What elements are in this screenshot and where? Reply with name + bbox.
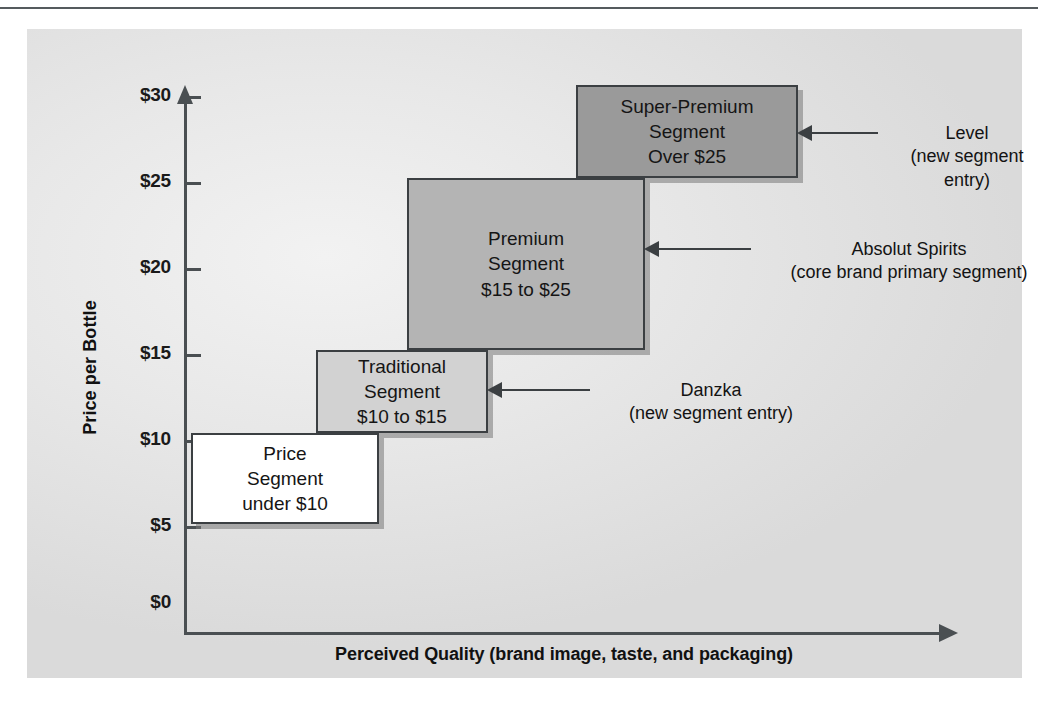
segment-super-premium-line2: Segment: [649, 119, 725, 144]
y-tick-mark-5: [187, 526, 201, 529]
x-axis-title: Perceived Quality (brand image, taste, a…: [184, 644, 944, 665]
y-tick-label-20: $20: [107, 256, 171, 278]
y-tick-mark-20: [187, 268, 201, 271]
top-divider-rule: [0, 7, 1038, 9]
chart-figure: $30 $25 $20 $15 $10 $5 $0 Price per Bott…: [0, 0, 1038, 701]
segment-price-line3: under $10: [242, 491, 328, 516]
segment-traditional-line3: $10 to $15: [357, 404, 447, 429]
segment-price-line1: Price: [263, 441, 306, 466]
callout-level: Level (new segment entry): [869, 122, 1038, 192]
callout-arrowhead-danzka-icon: [487, 382, 502, 398]
callout-absolut-detail-1: (core brand primary segment): [761, 261, 1038, 284]
segment-box-price[interactable]: Price Segment under $10: [191, 433, 379, 524]
x-axis-arrowhead-icon: [939, 624, 958, 642]
y-tick-mark-25: [187, 182, 201, 185]
segment-super-premium-line3: Over $25: [648, 144, 726, 169]
callout-absolut: Absolut Spirits (core brand primary segm…: [761, 238, 1038, 285]
y-tick-label-15: $15: [107, 342, 171, 364]
segment-premium-line2: Segment: [488, 251, 564, 276]
segment-premium-line1: Premium: [488, 226, 564, 251]
callout-arrowhead-level-icon: [797, 125, 812, 141]
y-tick-25: $25: [105, 182, 201, 185]
y-tick-mark-15: [187, 354, 201, 357]
segment-price-line2: Segment: [247, 466, 323, 491]
y-tick-10: $10: [105, 440, 201, 443]
y-tick-label-0: $0: [107, 591, 171, 613]
callout-absolut-brand: Absolut Spirits: [761, 238, 1038, 261]
callout-leader-line-absolut: [659, 248, 751, 250]
y-tick-30: $30: [105, 96, 201, 99]
y-tick-label-5: $5: [107, 514, 171, 536]
callout-danzka: Danzka (new segment entry): [601, 379, 821, 426]
y-tick-label-25: $25: [107, 170, 171, 192]
y-axis-line: [184, 101, 187, 634]
y-axis-arrowhead-icon: [177, 85, 193, 104]
segment-box-premium[interactable]: Premium Segment $15 to $25: [407, 178, 645, 350]
y-tick-0: $0: [105, 603, 201, 606]
callout-leader-line-danzka: [502, 389, 590, 391]
segment-premium-line3: $15 to $25: [481, 277, 571, 302]
y-tick-label-10: $10: [107, 428, 171, 450]
segment-traditional-line2: Segment: [364, 379, 440, 404]
segment-traditional-line1: Traditional: [358, 354, 446, 379]
callout-level-brand: Level: [869, 122, 1038, 145]
y-tick-mark-30: [187, 96, 201, 99]
segment-super-premium-line1: Super-Premium: [620, 94, 753, 119]
callout-level-detail-2: entry): [869, 169, 1038, 192]
y-tick-15: $15: [105, 354, 201, 357]
callout-danzka-detail-1: (new segment entry): [601, 402, 821, 425]
segment-box-traditional[interactable]: Traditional Segment $10 to $15: [316, 350, 488, 433]
y-axis-title: Price per Bottle: [80, 263, 101, 473]
segment-box-super-premium[interactable]: Super-Premium Segment Over $25: [576, 85, 798, 178]
y-tick-5: $5: [105, 526, 201, 529]
x-axis-line: [184, 632, 944, 635]
callout-level-detail-1: (new segment: [869, 145, 1038, 168]
y-tick-label-30: $30: [107, 84, 171, 106]
callout-arrowhead-absolut-icon: [644, 241, 659, 257]
callout-danzka-brand: Danzka: [601, 379, 821, 402]
y-tick-20: $20: [105, 268, 201, 271]
chart-panel: $30 $25 $20 $15 $10 $5 $0 Price per Bott…: [27, 29, 1022, 678]
